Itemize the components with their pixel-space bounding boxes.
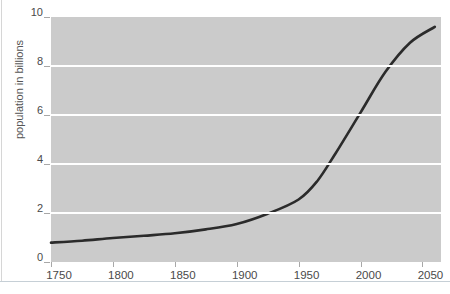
x-tick-mark (299, 262, 300, 267)
x-tick-label: 1950 (287, 269, 327, 281)
x-tick-mark (361, 262, 362, 267)
gridline-4 (51, 163, 441, 165)
x-tick-mark (175, 262, 176, 267)
population-growth-figure: population in billions 0246810 175018001… (0, 0, 450, 294)
gridline-2 (51, 212, 441, 214)
page-edge-line (1, 0, 2, 281)
x-tick-label: 2050 (410, 269, 450, 281)
page-divider-line (0, 281, 450, 282)
x-tick-label: 1800 (101, 269, 141, 281)
y-tick-mark (44, 66, 50, 67)
y-tick-mark (44, 164, 50, 165)
y-tick-label: 2 (13, 203, 43, 214)
y-tick-label: 10 (13, 7, 43, 18)
gridline-8 (51, 65, 441, 67)
population-curve (51, 17, 441, 262)
x-tick-label: 1850 (163, 269, 203, 281)
plot-area (51, 17, 441, 262)
x-tick-mark (51, 262, 52, 267)
x-tick-mark (422, 262, 423, 267)
y-tick-mark (44, 262, 50, 263)
x-tick-label: 1750 (39, 269, 79, 281)
y-tick-mark (44, 213, 50, 214)
gridline-6 (51, 114, 441, 116)
x-tick-mark (113, 262, 114, 267)
x-tick-label: 2000 (349, 269, 389, 281)
y-tick-mark (44, 115, 50, 116)
y-tick-label: 6 (13, 105, 43, 116)
x-tick-mark (237, 262, 238, 267)
population-curve-path (51, 27, 435, 243)
y-tick-label: 8 (13, 56, 43, 67)
x-tick-label: 1900 (225, 269, 265, 281)
y-tick-mark (44, 17, 50, 18)
y-tick-label: 4 (13, 154, 43, 165)
y-tick-label: 0 (13, 252, 43, 263)
